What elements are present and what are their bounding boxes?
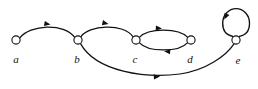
node-layer	[12, 36, 240, 44]
edge-c-to-d	[139, 30, 187, 37]
arrowhead-b-to-e	[154, 74, 161, 80]
edge-b-to-e	[80, 43, 234, 75]
node-label-c: c	[133, 53, 138, 65]
edge-a-to-b	[20, 27, 75, 38]
edge-d-to-c	[139, 43, 187, 50]
node-label-a: a	[13, 53, 19, 65]
node-c[interactable]	[132, 36, 140, 44]
label-layer: a b c d e	[13, 53, 240, 66]
graph-canvas: a b c d e	[0, 0, 258, 89]
edge-e-self-loop	[223, 9, 250, 37]
edge-b-to-c	[81, 27, 133, 37]
node-label-d: d	[187, 53, 193, 65]
node-d[interactable]	[187, 36, 195, 44]
node-b[interactable]	[74, 36, 82, 44]
arrowhead-a-to-b	[44, 21, 51, 27]
node-e[interactable]	[232, 36, 240, 44]
directed-graph-figure: a b c d e	[0, 0, 258, 89]
arrowhead-b-to-c	[102, 20, 109, 26]
node-a[interactable]	[12, 36, 20, 44]
node-label-e: e	[236, 54, 241, 66]
node-label-b: b	[74, 53, 80, 65]
